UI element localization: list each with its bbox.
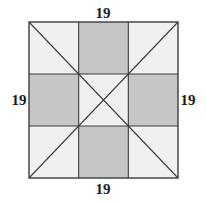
side-label-top: 19 bbox=[0, 6, 206, 21]
side-label-right: 19 bbox=[177, 93, 199, 108]
geometry-figure: 19 19 19 19 bbox=[0, 0, 206, 204]
cell-row1-col2 bbox=[128, 74, 178, 126]
side-label-bottom: 19 bbox=[0, 182, 206, 197]
side-label-left: 19 bbox=[8, 93, 30, 108]
square-grid-diagram bbox=[0, 0, 206, 204]
cell-row2-col1 bbox=[79, 126, 129, 178]
cell-row1-col0 bbox=[29, 74, 79, 126]
cell-row0-col1 bbox=[79, 22, 129, 74]
